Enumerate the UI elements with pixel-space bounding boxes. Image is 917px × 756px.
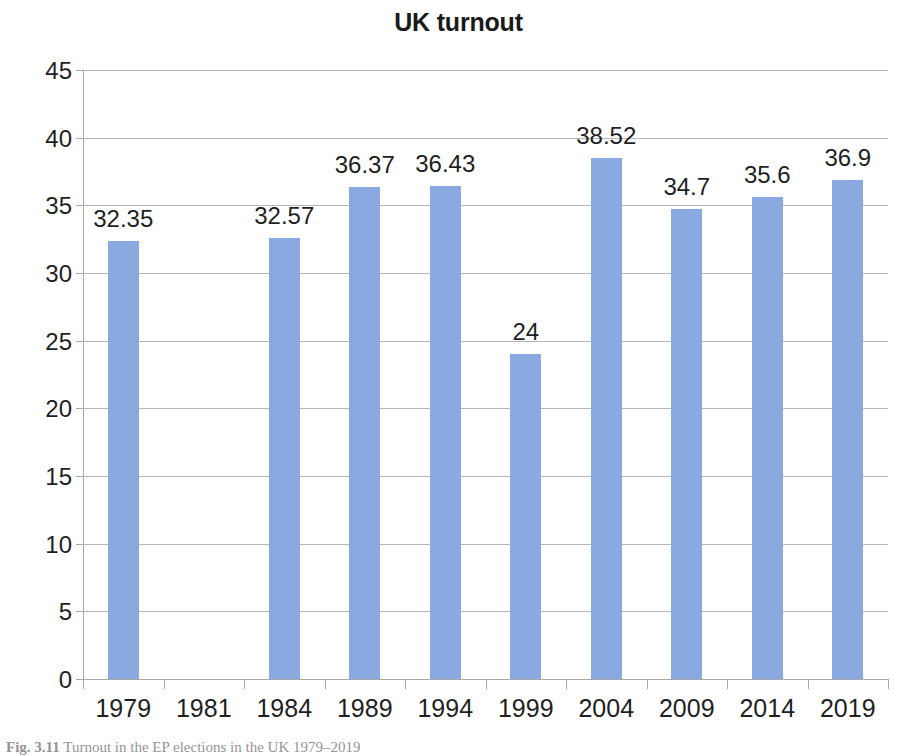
x-tick-label-2004: 2004	[578, 694, 634, 723]
bar-1989[interactable]	[349, 187, 380, 679]
x-tick-mark	[164, 680, 165, 689]
bar-value-label-2004: 38.52	[576, 122, 636, 150]
figure-caption-text: Turnout in the EP elections in the UK 19…	[63, 739, 360, 755]
x-tick-mark	[808, 680, 809, 689]
x-tick-label-2019: 2019	[820, 694, 876, 723]
x-tick-mark	[486, 680, 487, 689]
x-tick-label-1994: 1994	[417, 694, 473, 723]
gridline	[83, 138, 888, 139]
x-tick-label-1999: 1999	[498, 694, 554, 723]
bar-2009[interactable]	[671, 209, 702, 679]
figure-caption: Fig. 3.11 Turnout in the EP elections in…	[6, 739, 360, 756]
x-tick-mark	[405, 680, 406, 689]
y-axis-tick-labels: 454035302520151050	[0, 0, 72, 754]
x-tick-label-1984: 1984	[256, 694, 312, 723]
bar-value-label-2019: 36.9	[824, 144, 871, 172]
bar-1999[interactable]	[510, 354, 541, 679]
y-tick-label: 0	[10, 666, 72, 694]
bar-1984[interactable]	[269, 238, 300, 679]
y-tick-label: 15	[10, 463, 72, 491]
x-tick-label-2009: 2009	[659, 694, 715, 723]
figure-caption-label: Fig. 3.11	[6, 739, 60, 755]
bar-2019[interactable]	[832, 180, 863, 679]
gridline	[83, 70, 888, 71]
bar-value-label-1979: 32.35	[93, 205, 153, 233]
x-tick-label-1979: 1979	[95, 694, 151, 723]
bar-value-label-2009: 34.7	[663, 173, 710, 201]
bar-1994[interactable]	[430, 186, 461, 679]
bar-1979[interactable]	[108, 241, 139, 679]
x-tick-mark	[888, 680, 889, 689]
bar-value-label-1999: 24	[512, 318, 539, 346]
x-tick-mark	[647, 680, 648, 689]
x-tick-mark	[83, 680, 84, 689]
x-tick-mark	[325, 680, 326, 689]
bar-value-label-1984: 32.57	[254, 202, 314, 230]
x-tick-label-1989: 1989	[337, 694, 393, 723]
y-tick-label: 10	[10, 531, 72, 559]
chart-title: UK turnout	[0, 8, 917, 37]
x-tick-mark	[566, 680, 567, 689]
y-tick-label: 40	[10, 125, 72, 153]
bar-value-label-2014: 35.6	[744, 161, 791, 189]
bar-value-label-1994: 36.43	[415, 150, 475, 178]
y-tick-label: 35	[10, 192, 72, 220]
y-tick-label: 25	[10, 328, 72, 356]
bar-2014[interactable]	[752, 197, 783, 679]
x-tick-mark	[244, 680, 245, 689]
x-tick-label-1981: 1981	[176, 694, 232, 723]
y-tick-label: 5	[10, 598, 72, 626]
y-tick-label: 30	[10, 260, 72, 288]
x-tick-mark	[727, 680, 728, 689]
bar-2004[interactable]	[591, 158, 622, 679]
x-tick-label-2014: 2014	[739, 694, 795, 723]
bar-value-label-1989: 36.37	[335, 151, 395, 179]
y-tick-label: 45	[10, 57, 72, 85]
y-tick-label: 20	[10, 395, 72, 423]
